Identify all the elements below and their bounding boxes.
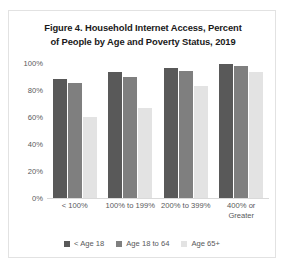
bar-groups xyxy=(47,63,269,198)
x-axis-category-label: 200% to 399% xyxy=(158,201,214,221)
chart-title-line-2: of People by Age and Poverty Status, 201… xyxy=(21,35,265,49)
legend-item: < Age 18 xyxy=(64,239,104,248)
legend-label: Age 18 to 64 xyxy=(126,239,169,248)
legend-label: < Age 18 xyxy=(74,239,104,248)
y-axis-tick-label: 20% xyxy=(28,167,43,176)
x-axis-category-label: 400% or Greater xyxy=(214,201,270,221)
y-axis-tick-label: 0% xyxy=(32,194,43,203)
y-axis-tick-label: 80% xyxy=(28,86,43,95)
chart-legend: < Age 18Age 18 to 64Age 65+ xyxy=(9,239,275,248)
y-axis-tick-label: 100% xyxy=(24,59,43,68)
bar xyxy=(179,71,193,198)
bar xyxy=(138,108,152,198)
bar xyxy=(194,86,208,198)
plot-wrapper: 100%80%60%40%20%0% < 100%100% to 199%200… xyxy=(9,63,275,213)
y-axis-tick-label: 40% xyxy=(28,140,43,149)
legend-swatch-icon xyxy=(181,241,187,247)
bar-group xyxy=(158,63,214,198)
legend-item: Age 65+ xyxy=(181,239,220,248)
bar xyxy=(123,77,137,199)
x-axis-categories: < 100%100% to 199%200% to 399%400% or Gr… xyxy=(47,201,269,221)
plot-area xyxy=(47,63,269,199)
bar xyxy=(68,83,82,198)
legend-swatch-icon xyxy=(116,241,122,247)
bar xyxy=(83,117,97,198)
bar xyxy=(249,72,263,198)
bar-group xyxy=(214,63,270,198)
x-axis-category-label: < 100% xyxy=(47,201,103,221)
bar-group xyxy=(47,63,103,198)
bar-group xyxy=(103,63,159,198)
bar xyxy=(53,79,67,198)
x-axis-category-label: 100% to 199% xyxy=(103,201,159,221)
y-axis-tick-label: 60% xyxy=(28,113,43,122)
bar xyxy=(108,72,122,198)
y-axis: 100%80%60%40%20%0% xyxy=(9,63,47,198)
legend-swatch-icon xyxy=(64,241,70,247)
bar xyxy=(164,68,178,198)
chart-title: Figure 4. Household Internet Access, Per… xyxy=(21,21,265,49)
bar xyxy=(219,64,233,198)
figure-frame: Figure 4. Household Internet Access, Per… xyxy=(8,10,276,258)
bar xyxy=(234,66,248,198)
legend-item: Age 18 to 64 xyxy=(116,239,169,248)
chart-title-line-1: Figure 4. Household Internet Access, Per… xyxy=(21,21,265,35)
legend-label: Age 65+ xyxy=(191,239,220,248)
